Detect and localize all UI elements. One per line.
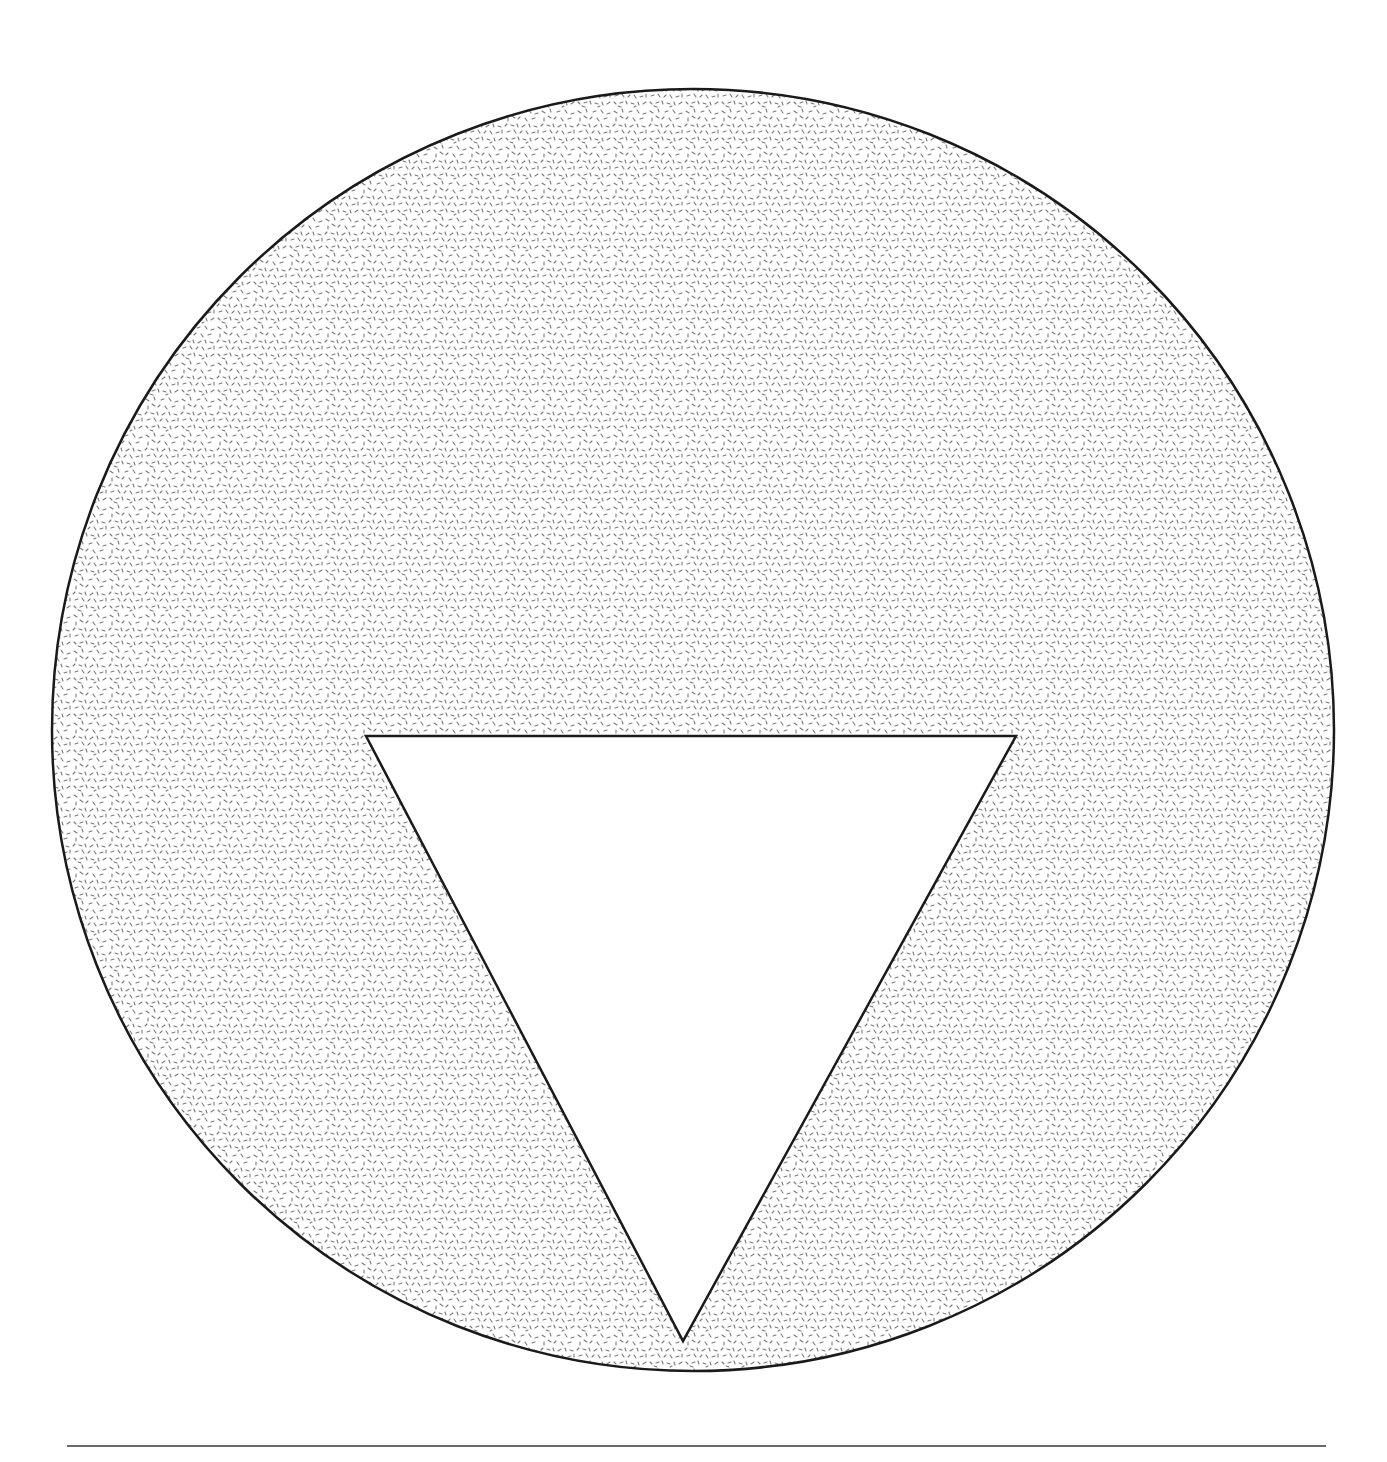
figure-plate: [0, 0, 1387, 1462]
figure-caption: [190, 1456, 1290, 1462]
caption-divider: [67, 1445, 1326, 1447]
